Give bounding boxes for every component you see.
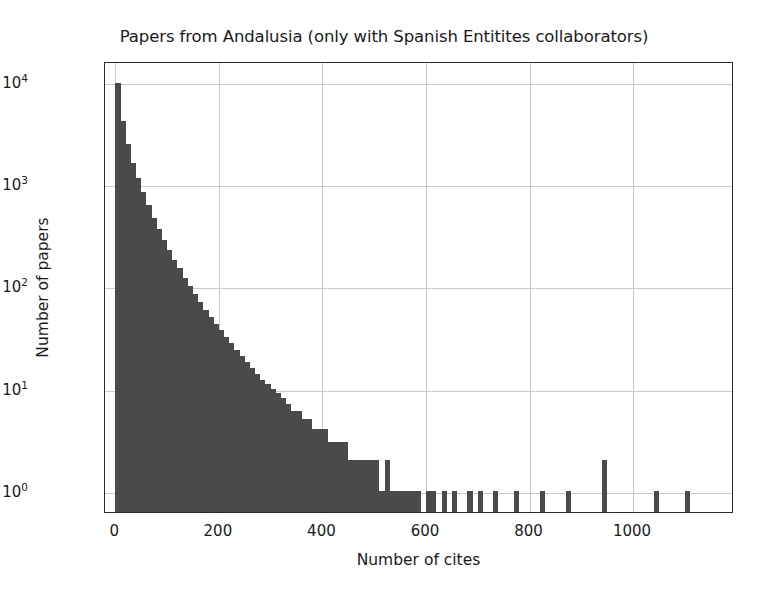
histogram-bar bbox=[540, 491, 545, 512]
histogram-bar bbox=[685, 491, 690, 512]
ytick-minor bbox=[104, 298, 105, 299]
ytick-label-10^3: 103 bbox=[2, 176, 28, 194]
xtick-label-800: 800 bbox=[514, 522, 543, 540]
ytick-minor bbox=[104, 406, 105, 407]
histogram-bar bbox=[654, 491, 659, 512]
x-axis-title: Number of cites bbox=[104, 551, 733, 569]
histogram-bar bbox=[442, 491, 447, 512]
ytick-minor bbox=[104, 304, 105, 305]
ytick-minor bbox=[104, 462, 105, 463]
histogram-bar bbox=[602, 460, 607, 512]
xtick-label-200: 200 bbox=[204, 522, 233, 540]
histogram-bar bbox=[566, 491, 571, 512]
ytick-minor bbox=[104, 137, 105, 138]
xtick-label-1000: 1000 bbox=[613, 522, 651, 540]
ytick-minor bbox=[104, 155, 105, 156]
ytick-minor bbox=[104, 319, 105, 320]
y-axis-title: Number of papers bbox=[34, 62, 52, 513]
ytick-major-10^3 bbox=[104, 186, 105, 187]
ytick-minor bbox=[104, 258, 105, 259]
ytick-minor bbox=[104, 329, 105, 330]
ytick-minor bbox=[104, 421, 105, 422]
ytick-minor bbox=[104, 107, 105, 108]
ytick-minor bbox=[104, 227, 105, 228]
ytick-minor bbox=[104, 431, 105, 432]
xtick-major-400 bbox=[322, 512, 323, 513]
ytick-label-10^0: 100 bbox=[2, 483, 28, 501]
ytick-major-10^1 bbox=[104, 391, 105, 392]
ytick-minor bbox=[104, 240, 105, 241]
ytick-minor bbox=[104, 360, 105, 361]
ytick-minor bbox=[104, 196, 105, 197]
ytick-minor bbox=[104, 342, 105, 343]
ytick-minor bbox=[104, 217, 105, 218]
xtick-major-200 bbox=[219, 512, 220, 513]
ytick-minor bbox=[104, 413, 105, 414]
ytick-label-10^1: 101 bbox=[2, 381, 28, 399]
chart-figure: Papers from Andalusia (only with Spanish… bbox=[0, 0, 768, 589]
ytick-label-10^2: 102 bbox=[2, 278, 28, 296]
xtick-major-0 bbox=[115, 512, 116, 513]
histogram-bar bbox=[431, 491, 436, 512]
ytick-major-10^4 bbox=[104, 84, 105, 85]
xtick-label-400: 400 bbox=[307, 522, 336, 540]
ytick-minor bbox=[104, 202, 105, 203]
ytick-minor bbox=[104, 444, 105, 445]
histogram-bar bbox=[416, 491, 421, 512]
ytick-minor bbox=[104, 94, 105, 95]
plot-area bbox=[104, 62, 733, 513]
chart-title: Papers from Andalusia (only with Spanish… bbox=[0, 27, 768, 46]
histogram-bar bbox=[452, 491, 457, 512]
histogram-bar bbox=[514, 491, 519, 512]
ytick-minor bbox=[104, 191, 105, 192]
ytick-minor bbox=[104, 89, 105, 90]
ytick-minor bbox=[104, 125, 105, 126]
ytick-minor bbox=[104, 395, 105, 396]
xtick-major-800 bbox=[530, 512, 531, 513]
ytick-minor bbox=[104, 115, 105, 116]
ytick-major-10^0 bbox=[104, 493, 105, 494]
xtick-label-0: 0 bbox=[110, 522, 120, 540]
ytick-major-10^2 bbox=[104, 288, 105, 289]
histogram-bar bbox=[493, 491, 498, 512]
ytick-minor bbox=[104, 100, 105, 101]
xtick-label-600: 600 bbox=[411, 522, 440, 540]
ytick-label-10^4: 104 bbox=[2, 74, 28, 92]
ytick-minor bbox=[104, 209, 105, 210]
xtick-major-1000 bbox=[633, 512, 634, 513]
ytick-minor bbox=[104, 400, 105, 401]
ytick-minor bbox=[104, 311, 105, 312]
ytick-minor bbox=[104, 293, 105, 294]
histogram-bar bbox=[478, 491, 483, 512]
histogram-bar bbox=[467, 491, 472, 512]
histogram-bars bbox=[105, 63, 732, 512]
xtick-major-600 bbox=[426, 512, 427, 513]
